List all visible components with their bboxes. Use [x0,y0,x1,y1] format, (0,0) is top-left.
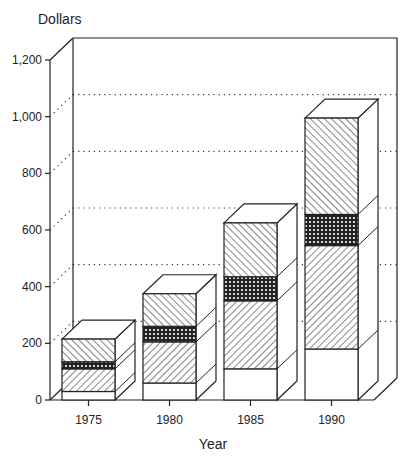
bar-segment-4 [62,339,115,362]
x-tick-label: 1975 [75,413,102,427]
bar-segment-2 [62,369,115,392]
bar-segment-3 [224,277,277,301]
x-tick-label: 1985 [237,413,264,427]
bars [62,99,378,400]
bar-segment-1 [143,383,196,400]
bar-segment-1 [62,392,115,401]
bar-side-face [277,204,297,400]
bar-segment-4 [143,294,196,327]
bar-segment-4 [305,118,358,214]
bar-segment-4 [224,223,277,277]
x-tick-label: 1980 [156,413,183,427]
bar-1980 [143,275,216,400]
grid-line-diagonal [50,95,73,117]
grid-line-diagonal [50,265,73,287]
bar-1975 [62,320,135,400]
bar-segment-3 [305,214,358,245]
bar-segment-2 [305,246,358,349]
x-axis-title: Year [199,436,228,452]
stacked-3d-bar-chart: 02004006008001,0001,2001975198019851990D… [0,0,409,465]
y-tick-label: 1,000 [12,110,42,124]
bar-segment-2 [143,342,196,383]
bar-segment-2 [224,301,277,369]
bar-1990 [305,99,378,400]
y-tick-label: 600 [22,223,42,237]
grid-line-diagonal [50,151,73,173]
bar-segment-1 [305,349,358,400]
x-tick-label: 1990 [318,413,345,427]
bar-1985 [224,204,297,400]
bar-side-face [358,99,378,400]
grid-line-diagonal [50,208,73,230]
y-tick-label: 0 [35,393,42,407]
bar-segment-3 [62,362,115,369]
bar-segment-3 [143,326,196,342]
y-tick-label: 400 [22,280,42,294]
y-axis-title: Dollars [38,11,82,27]
y-axis-top-edge [50,38,73,60]
bar-segment-1 [224,369,277,400]
y-tick-label: 200 [22,336,42,350]
y-tick-label: 800 [22,166,42,180]
y-tick-label: 1,200 [12,53,42,67]
bar-side-face [196,275,216,400]
